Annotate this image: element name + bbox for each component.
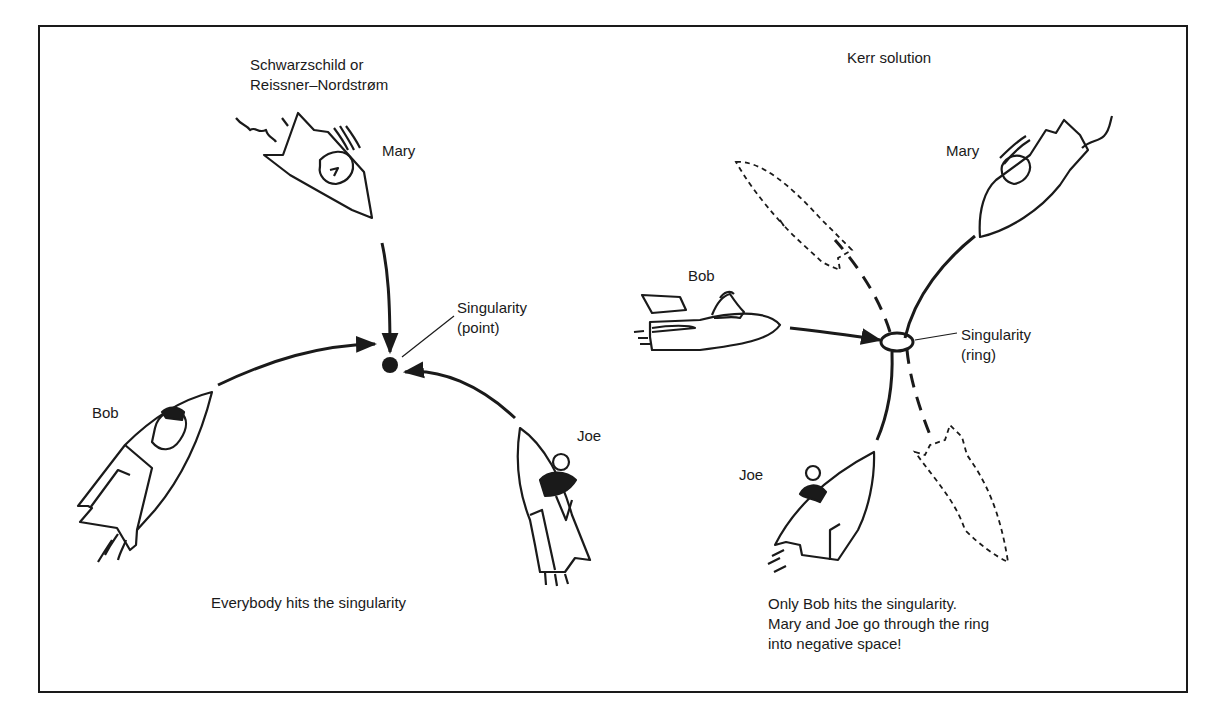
joe-kerr-trajectory [877, 352, 892, 440]
joe-kerr-rocket-icon [768, 452, 874, 572]
point-singularity-label-line1: Singularity [457, 298, 527, 317]
right-caption-line1: Only Bob hits the singularity. [768, 594, 957, 613]
joe-label-right: Joe [739, 465, 763, 484]
point-singularity-label-line2: (point) [457, 318, 500, 337]
mary-rocket-icon [236, 113, 372, 218]
mary-kerr-trajectory [905, 236, 975, 338]
left-panel-artwork [78, 113, 590, 586]
right-panel-artwork [634, 116, 1112, 572]
joe-trajectory [405, 371, 515, 418]
mary-label-left: Mary [382, 141, 415, 160]
point-singularity-leader [402, 316, 454, 357]
ring-singularity-label-line2: (ring) [961, 345, 996, 364]
joe-kerr-ghost-rocket-icon [736, 162, 852, 270]
left-caption: Everybody hits the singularity [211, 593, 406, 612]
mary-label-right: Mary [946, 141, 979, 160]
bob-kerr-rocket-icon [634, 292, 780, 350]
joe-label-left: Joe [577, 426, 601, 445]
right-title: Kerr solution [847, 48, 931, 67]
mary-trajectory [382, 243, 390, 352]
left-title-line1: Schwarzschild or [250, 55, 363, 74]
mary-kerr-continuation [907, 350, 932, 440]
mary-kerr-ghost-rocket-icon [915, 425, 1008, 562]
diagram-artwork [0, 0, 1219, 723]
right-caption-line2: Mary and Joe go through the ring [768, 614, 989, 633]
ring-singularity [881, 333, 913, 351]
bob-trajectory [218, 344, 375, 385]
bob-label-right: Bob [688, 266, 715, 285]
ring-singularity-label-line1: Singularity [961, 325, 1031, 344]
point-singularity [382, 357, 398, 373]
bob-kerr-trajectory [790, 328, 880, 340]
right-caption-line3: into negative space! [768, 634, 901, 653]
joe-kerr-continuation [835, 240, 890, 332]
left-title-line2: Reissner–Nordstrøm [250, 75, 388, 94]
joe-rocket-icon [518, 428, 590, 586]
ring-singularity-leader [915, 333, 957, 340]
mary-kerr-rocket-icon [980, 116, 1112, 237]
bob-label-left: Bob [92, 403, 119, 422]
